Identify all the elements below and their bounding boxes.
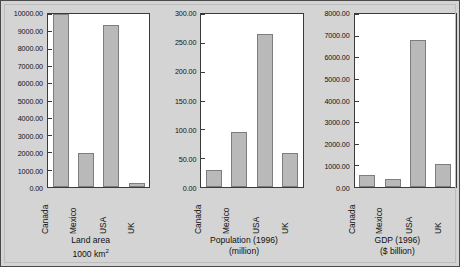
y-tick-label: 200.00 <box>175 67 196 76</box>
x-axis-labels: CanadaMexicoUSAUK <box>47 190 150 232</box>
caption-title: Population (1996) <box>210 235 278 245</box>
y-tick-label: 8000.00 <box>18 44 43 53</box>
y-tick-label: 2000.00 <box>18 149 43 158</box>
y-tick-label: 5000.00 <box>18 96 43 105</box>
x-tick-label-canada: Canada <box>189 203 199 232</box>
bar-slot <box>355 14 380 187</box>
bar-series <box>355 14 456 187</box>
x-tick-label-canada: Canada <box>342 203 352 232</box>
x-tick-label-canada: Canada <box>35 203 45 232</box>
caption-subtitle: 1000 km2 <box>31 246 150 259</box>
y-tick-label: 4000.00 <box>324 96 349 105</box>
caption-subtitle: (million) <box>184 246 303 257</box>
y-tick-label: 5000.00 <box>324 74 349 83</box>
y-tick-label: 8000.00 <box>324 9 349 18</box>
y-tick-mark <box>48 187 52 188</box>
x-label-slot: UK <box>278 190 304 232</box>
x-axis-labels: CanadaMexicoUSAUK <box>354 190 457 232</box>
bar-mexico[interactable] <box>385 179 401 187</box>
caption-title: Land area <box>71 235 110 245</box>
plot-area <box>47 13 150 188</box>
y-tick-label: 0.00 <box>183 184 197 193</box>
bar-usa[interactable] <box>410 40 426 187</box>
x-tick-label-uk: UK <box>122 220 132 232</box>
y-tick-label: 50.00 <box>179 154 197 163</box>
caption-subtitle: ($ billion) <box>338 246 457 257</box>
y-tick-label: 6000.00 <box>324 52 349 61</box>
bar-slot <box>431 14 456 187</box>
bar-slot <box>124 14 149 187</box>
bar-slot <box>201 14 226 187</box>
bar-slot <box>73 14 98 187</box>
bar-canada[interactable] <box>53 14 69 187</box>
chart-panel-land-area: 0.001000.002000.003000.004000.005000.006… <box>1 1 154 267</box>
y-tick-label: 6000.00 <box>18 79 43 88</box>
x-tick-label-uk: UK <box>275 220 285 232</box>
x-label-slot: USA <box>252 190 278 232</box>
x-tick-label-uk: UK <box>428 220 438 232</box>
panel-row: 0.001000.002000.003000.004000.005000.006… <box>1 1 460 267</box>
chart-panel-gdp: 0.001000.002000.003000.004000.005000.006… <box>308 1 460 267</box>
y-axis-labels: 0.001000.002000.003000.004000.005000.006… <box>1 13 47 188</box>
y-axis-labels: 0.0050.00100.00150.00200.00250.00300.00 <box>154 13 200 188</box>
x-tick-label-usa: USA <box>400 215 410 232</box>
bar-mexico[interactable] <box>231 132 247 187</box>
panel-caption: Land area 1000 km2 <box>31 235 150 259</box>
plot-wrapper: 0.0050.00100.00150.00200.00250.00300.00 <box>154 13 303 188</box>
x-label-slot: UK <box>431 190 457 232</box>
x-tick-label-usa: USA <box>93 215 103 232</box>
x-tick-label-mexico: Mexico <box>369 205 379 232</box>
y-tick-label: 10000.00 <box>14 9 43 18</box>
figure-container: 0.001000.002000.003000.004000.005000.006… <box>0 0 460 267</box>
x-tick-label-usa: USA <box>246 215 256 232</box>
y-tick-label: 300.00 <box>175 9 196 18</box>
bar-slot <box>277 14 302 187</box>
y-tick-label: 250.00 <box>175 38 196 47</box>
y-tick-label: 3000.00 <box>18 131 43 140</box>
y-tick-label: 4000.00 <box>18 114 43 123</box>
y-tick-label: 1000.00 <box>324 162 349 171</box>
bar-slot <box>48 14 73 187</box>
bar-canada[interactable] <box>359 175 375 187</box>
chart-panel-population: 0.0050.00100.00150.00200.00250.00300.00 … <box>154 1 307 267</box>
y-tick-label: 1000.00 <box>18 166 43 175</box>
y-tick-label: 3000.00 <box>324 118 349 127</box>
bar-slot <box>252 14 277 187</box>
bar-uk[interactable] <box>282 153 298 187</box>
x-label-slot: UK <box>124 190 150 232</box>
panel-caption: GDP (1996) ($ billion) <box>338 235 457 256</box>
bar-mexico[interactable] <box>78 153 94 187</box>
bar-series <box>48 14 149 187</box>
bar-slot <box>99 14 124 187</box>
bar-slot <box>380 14 405 187</box>
x-tick-label-mexico: Mexico <box>62 205 72 232</box>
y-tick-label: 7000.00 <box>324 30 349 39</box>
bar-canada[interactable] <box>206 170 222 187</box>
bar-usa[interactable] <box>257 34 273 187</box>
x-tick-label-mexico: Mexico <box>216 205 226 232</box>
y-tick-label: 150.00 <box>175 96 196 105</box>
plot-wrapper: 0.001000.002000.003000.004000.005000.006… <box>1 13 150 188</box>
bar-uk[interactable] <box>435 164 451 187</box>
y-tick-label: 100.00 <box>175 125 196 134</box>
plot-wrapper: 0.001000.002000.003000.004000.005000.006… <box>308 13 457 188</box>
y-tick-mark <box>201 187 205 188</box>
plot-area <box>200 13 303 188</box>
y-tick-label: 2000.00 <box>324 140 349 149</box>
panel-caption: Population (1996) (million) <box>184 235 303 256</box>
y-tick-label: 0.00 <box>336 184 350 193</box>
bar-usa[interactable] <box>103 25 119 187</box>
bar-slot <box>405 14 430 187</box>
y-tick-label: 0.00 <box>29 184 43 193</box>
plot-area <box>354 13 457 188</box>
bar-series <box>201 14 302 187</box>
caption-title: GDP (1996) <box>374 235 420 245</box>
y-tick-label: 9000.00 <box>18 26 43 35</box>
y-axis-labels: 0.001000.002000.003000.004000.005000.006… <box>308 13 354 188</box>
bar-slot <box>227 14 252 187</box>
y-tick-label: 7000.00 <box>18 61 43 70</box>
x-axis-labels: CanadaMexicoUSAUK <box>200 190 303 232</box>
bar-uk[interactable] <box>129 183 145 187</box>
y-tick-mark <box>355 187 359 188</box>
